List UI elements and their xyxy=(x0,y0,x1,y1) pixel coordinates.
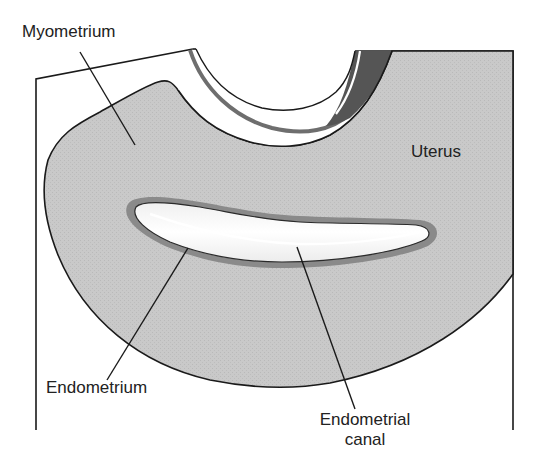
label-endometrium: Endometrium xyxy=(46,378,147,398)
label-uterus: Uterus xyxy=(411,142,461,162)
label-myometrium: Myometrium xyxy=(22,22,116,42)
label-endometrial-canal-line2: canal xyxy=(305,430,425,450)
label-endometrial-canal: Endometrial canal xyxy=(305,410,425,450)
label-endometrial-canal-line1: Endometrial xyxy=(305,410,425,430)
